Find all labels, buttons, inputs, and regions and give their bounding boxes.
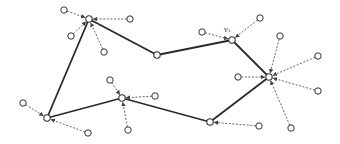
satellite-node [101,49,107,55]
edge-B-v1 [157,40,232,55]
satellite-node [68,33,74,39]
main-node-v1 [229,37,235,43]
main-node-A [86,16,92,22]
dashed-arrow [273,78,315,90]
satellite-node [277,33,283,39]
dashed-arrow [91,23,103,49]
edge-C-D [210,77,269,122]
satellite-node [61,7,67,13]
dashed-arrow [123,102,128,127]
edge-v1-C [232,40,269,77]
satellite-node [256,123,262,129]
dashed-arrows [26,11,315,132]
solid-edges [47,19,269,122]
dashed-arrow [271,81,290,125]
satellite-node [152,93,158,99]
main-node-F [44,115,50,121]
edge-A-B [89,19,157,55]
dashed-arrow [112,83,120,95]
dashed-arrow [273,57,315,75]
dashed-arrow [126,96,152,98]
satellite-node [20,100,26,106]
satellite-node [288,125,294,131]
dashed-arrow [270,39,279,73]
satellite-node [199,29,205,35]
dashed-arrow [235,20,257,37]
graph-diagram [0,0,340,144]
main-node-D [207,119,213,125]
dashed-arrow [67,11,85,17]
satellite-node [85,130,91,136]
satellite-node [257,15,263,21]
satellite-node [235,74,241,80]
satellite-node [315,53,321,59]
dashed-arrow [214,122,256,125]
satellite-node [315,88,321,94]
satellite-node [127,16,133,22]
main-node-E [119,95,125,101]
satellite-nodes [20,7,321,136]
edge-D-E [122,98,210,122]
main-node-B [154,52,160,58]
main-node-C [266,74,272,80]
node-label-v1: v₁ [224,26,231,34]
satellite-node [107,77,113,83]
edge-E-F [47,98,122,118]
satellite-node [125,127,131,133]
dashed-arrow [51,119,85,131]
dashed-arrow [26,105,44,116]
